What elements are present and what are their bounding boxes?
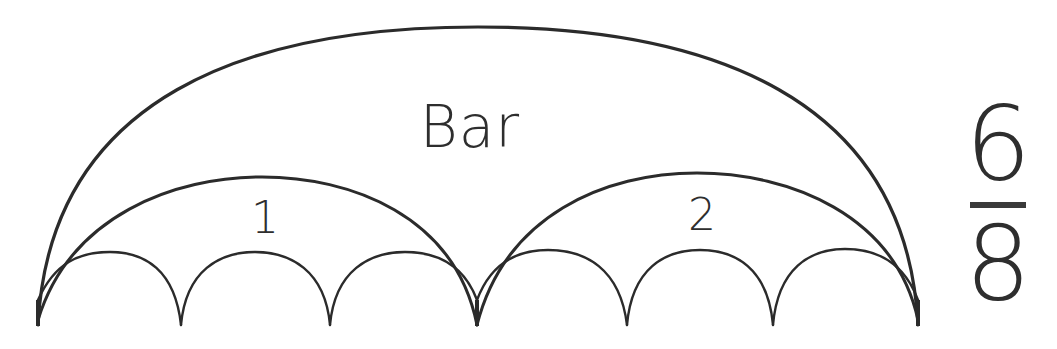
- time-signature-denominator: 8: [958, 212, 1038, 316]
- subdivision-arc-1: [38, 252, 181, 325]
- subdivision-arc-2: [181, 252, 330, 325]
- subdivision-arc-3: [330, 252, 477, 325]
- time-signature-numerator: 6: [958, 92, 1038, 196]
- subdivision-arc-5: [627, 250, 773, 325]
- bar-label: Bar: [420, 98, 520, 156]
- subdivision-arc-4: [477, 250, 627, 325]
- subdivision-arc-6: [773, 249, 918, 325]
- beat-label-1: 1: [251, 196, 279, 240]
- beat-label-2: 2: [688, 193, 716, 237]
- time-signature: 6 8: [958, 92, 1038, 316]
- arc-diagram: [0, 0, 1057, 349]
